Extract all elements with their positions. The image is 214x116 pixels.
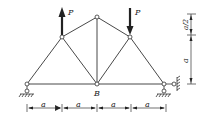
member-b-to-upper-right: [97, 37, 130, 84]
node-top: [95, 15, 99, 19]
load-up-arrow-icon: [59, 7, 66, 35]
node-right-support: [162, 82, 166, 86]
truss-nodes: [25, 15, 166, 86]
member-top-to-upper-right: [97, 17, 130, 37]
dim-label-v-top: a/2: [182, 18, 190, 30]
truss-members: [27, 17, 164, 84]
load-label-right: P: [134, 8, 141, 17]
dim-label-v-bottom: a: [181, 58, 190, 63]
horizontal-link-support-icon: [164, 76, 180, 91]
member-left-diagonal: [27, 37, 62, 84]
node-b: [95, 82, 99, 86]
dim-label-h1: a: [41, 100, 46, 109]
node-upper-right: [128, 35, 132, 39]
dim-label-h4: a: [145, 100, 150, 109]
dim-label-h3: a: [111, 100, 116, 109]
node-label-b: B: [93, 89, 100, 98]
truss-diagram: P P: [0, 0, 214, 116]
member-upper-left-to-top: [62, 17, 97, 37]
member-upper-left-to-b: [62, 37, 97, 84]
node-upper-left: [60, 35, 64, 39]
load-down-arrow-icon: [127, 8, 134, 35]
node-left-support: [25, 82, 29, 86]
load-label-left: P: [67, 8, 74, 17]
dim-label-h2: a: [76, 100, 81, 109]
member-right-diagonal: [130, 37, 164, 84]
